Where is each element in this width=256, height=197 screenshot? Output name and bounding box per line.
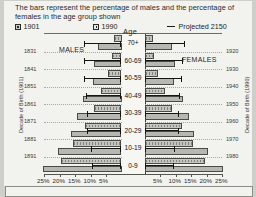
x-axis-tick-mark [176, 174, 177, 177]
age-group-label: 60-69 [122, 52, 145, 70]
left-axis-tick-label: 1841 [24, 66, 36, 72]
pyramid-row: 0-9 [44, 157, 222, 175]
projected-2150-line-females [145, 78, 183, 79]
left-axis-tick-label: 1881 [24, 136, 36, 142]
chart-caption: The bars represent the percentage of mal… [15, 3, 247, 22]
projected-2150-line-males [87, 113, 121, 114]
bar-1901-males [108, 70, 121, 77]
legend-item-1990: 1990 [93, 22, 118, 31]
projected-2150-line-males [86, 95, 122, 96]
x-axis-tick-mark [106, 174, 107, 177]
bar-1901-males [101, 88, 121, 95]
bar-1901-females [145, 35, 153, 42]
bar-1901-males [73, 140, 121, 147]
x-axis-tick-label-left: 15% [68, 177, 80, 184]
left-axis-tick-label: 1861 [24, 101, 36, 107]
x-axis-tick-mark [160, 174, 161, 177]
bar-1901-males [94, 105, 121, 112]
projected-2150-line-females [145, 148, 175, 149]
age-axis-header: Age [123, 27, 137, 36]
bar-1990-females [145, 113, 189, 120]
bar-1901-females [145, 123, 182, 130]
left-axis-tick-label: 1891 [24, 153, 36, 159]
left-axis-tick-label: 1871 [24, 118, 36, 124]
bar-1990-males [58, 148, 122, 155]
screenshot-root: The bars represent the percentage of mal… [0, 0, 256, 197]
projected-2150-line-females [145, 43, 185, 44]
bar-1901-females [145, 53, 155, 60]
chart-card: The bars represent the percentage of mal… [4, 1, 252, 186]
projected-2150-line-males [92, 165, 121, 166]
age-group-label: 40-49 [122, 87, 145, 105]
bar-1901-females [145, 88, 165, 95]
x-axis-tick-mark [75, 174, 76, 177]
x-axis-tick-label-left: 5% [99, 177, 108, 184]
projected-2150-line-males [84, 60, 121, 61]
pyramid-row: 10-19 [44, 139, 222, 157]
bar-1990-females [145, 131, 195, 138]
projected-2150-line-females [145, 165, 174, 166]
x-axis-tick-label-left: 25% [37, 177, 49, 184]
females-label: FEMALES [182, 56, 217, 63]
bar-1990-males [98, 43, 121, 50]
legend-swatch-solid-icon [93, 24, 99, 30]
x-axis-tick-mark [207, 174, 208, 177]
x-axis-tick-mark [60, 174, 61, 177]
x-axis-tick-mark [44, 174, 45, 177]
pyramid-row: 50-59 [44, 69, 222, 87]
x-axis-tick-mark [191, 174, 192, 177]
bar-1990-males [93, 78, 122, 85]
x-axis-tick-label-right: 5% [153, 177, 162, 184]
projected-2150-line-males [84, 78, 121, 79]
age-group-label: 50-59 [122, 69, 145, 87]
pyramid-row: 30-39 [44, 104, 222, 122]
legend-line-marker-icon [167, 26, 175, 27]
bar-1990-females [145, 61, 175, 68]
bar-1990-males [83, 96, 122, 103]
legend-swatch-hatched-icon [15, 24, 21, 30]
bar-1990-males [71, 131, 121, 138]
right-axis-tick-label: 1960 [226, 118, 238, 124]
bar-1901-females [145, 140, 193, 147]
bar-1990-females [145, 43, 172, 50]
x-axis-tick-label-right: 15% [184, 177, 196, 184]
age-group-label: 10-19 [122, 139, 145, 157]
bar-1990-females [145, 148, 209, 155]
legend-label-1990: 1990 [102, 22, 118, 31]
projected-2150-line-females [145, 95, 181, 96]
projected-2150-line-females [145, 113, 179, 114]
bar-1901-females [145, 158, 205, 165]
age-group-label: 30-39 [122, 104, 145, 122]
legend-label-projected-2150: Projected 2150 [179, 22, 227, 31]
projected-2150-line-males [91, 148, 121, 149]
plot-bottom-rule [44, 174, 222, 175]
males-label: MALES [59, 46, 84, 53]
x-axis-tick-label-right: 20% [200, 177, 212, 184]
right-axis-tick-label: 1980 [226, 153, 238, 159]
age-group-label: 20-29 [122, 122, 145, 140]
left-axis-tick-label: 1851 [24, 83, 36, 89]
card-bottom-strip [5, 186, 253, 197]
legend-item-projected-2150: Projected 2150 [167, 22, 227, 31]
x-axis-tick-label-left: 20% [53, 177, 65, 184]
legend-label-1901: 1901 [24, 22, 40, 31]
right-axis-title: Decade of Birth (1990) [244, 77, 250, 133]
projected-2150-line-females [145, 130, 179, 131]
age-group-label: 0-9 [122, 157, 145, 175]
bar-1990-males [43, 166, 121, 173]
projected-2150-line-males [87, 130, 121, 131]
age-group-label: 70+ [122, 34, 145, 52]
pyramid-row: 20-29 [44, 122, 222, 140]
left-axis-tick-label: 1831 [24, 48, 36, 54]
right-axis-tick-label: 1940 [226, 83, 238, 89]
bar-1990-females [145, 166, 223, 173]
projected-2150-line-females [145, 60, 184, 61]
right-axis-tick-label: 1950 [226, 101, 238, 107]
projected-2150-line-males [84, 43, 122, 44]
bar-1990-females [145, 78, 174, 85]
right-axis-tick-label: 1920 [226, 48, 238, 54]
bar-1990-females [145, 96, 184, 103]
bar-1901-females [145, 70, 159, 77]
x-axis-tick-mark [222, 174, 223, 177]
pyramid-row: 40-49 [44, 87, 222, 105]
